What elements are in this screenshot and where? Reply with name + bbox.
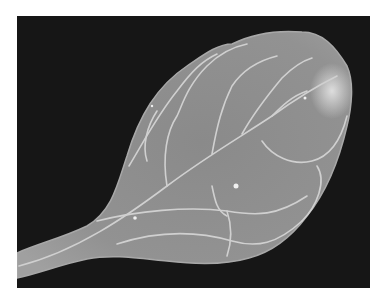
leaf-illustration (17, 16, 370, 288)
leaf-photo (17, 16, 370, 288)
leaf-blade (17, 32, 352, 279)
